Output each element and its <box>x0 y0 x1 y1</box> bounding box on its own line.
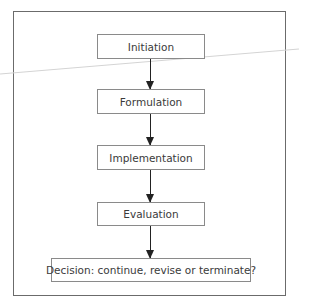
node-decision: Decision: continue, revise or terminate? <box>51 258 251 282</box>
arrow-down-icon <box>150 170 151 202</box>
node-evaluation: Evaluation <box>97 202 205 226</box>
node-label: Implementation <box>109 152 192 164</box>
node-label: Initiation <box>128 41 174 53</box>
node-formulation: Formulation <box>97 89 205 114</box>
node-label: Evaluation <box>123 208 178 220</box>
node-label: Decision: continue, revise or terminate? <box>46 264 256 276</box>
node-label: Formulation <box>120 96 183 108</box>
node-initiation: Initiation <box>97 34 205 59</box>
arrow-down-icon <box>150 114 151 145</box>
arrow-down-icon <box>150 226 151 258</box>
node-implementation: Implementation <box>97 145 205 170</box>
arrow-down-icon <box>150 59 151 89</box>
